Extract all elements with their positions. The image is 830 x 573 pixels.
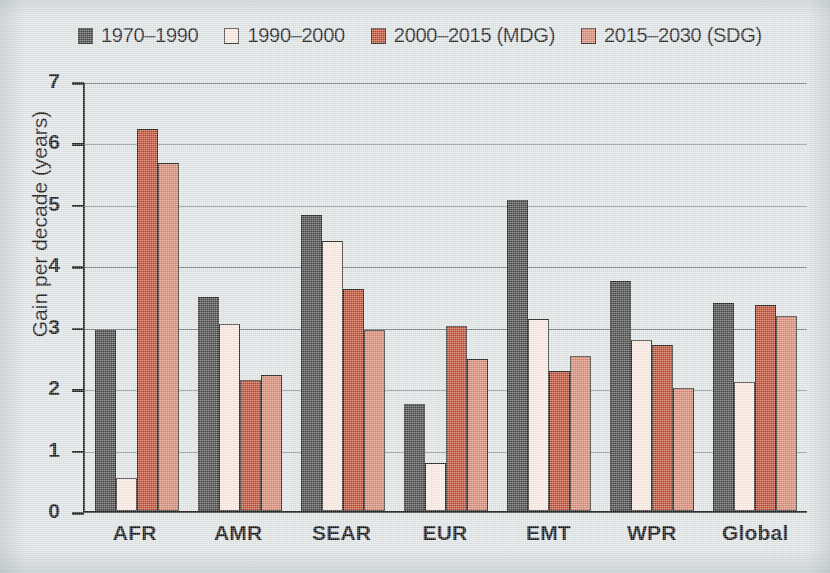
legend-swatch-1990-2000 [224, 28, 239, 44]
bar [219, 324, 240, 511]
y-tick-label: 7 [14, 69, 60, 93]
bars-layer [85, 83, 807, 511]
bar [734, 382, 755, 511]
bar [507, 200, 528, 511]
bar [755, 305, 776, 511]
y-tick-mark [72, 512, 84, 515]
bar [467, 359, 488, 511]
bar-group-emt [498, 83, 601, 511]
bar [404, 404, 425, 512]
bar [652, 345, 673, 511]
bar [301, 215, 322, 511]
legend-label: 2015–2030 (SDG) [604, 24, 762, 47]
legend-label: 2000–2015 (MDG) [394, 24, 555, 47]
x-axis-label-global: Global [704, 521, 807, 555]
bar-group-eur [394, 83, 497, 511]
y-tick-mark [72, 266, 84, 269]
bar [158, 163, 179, 511]
bar-group-afr [85, 83, 188, 511]
bar-group-global [704, 83, 807, 511]
bar [673, 388, 694, 511]
y-tick-mark [72, 82, 84, 85]
x-axis-label-sear: SEAR [290, 521, 393, 555]
y-tick-label: 4 [14, 253, 60, 277]
x-axis-label-wpr: WPR [600, 521, 703, 555]
bar [776, 316, 797, 511]
bar [198, 297, 219, 511]
bar [610, 281, 631, 511]
bar [116, 478, 137, 511]
y-tick-label: 6 [14, 130, 60, 154]
bar [240, 380, 261, 511]
bar-group-wpr [601, 83, 704, 511]
legend-label: 1970–1990 [101, 24, 198, 47]
x-axis-label-afr: AFR [83, 521, 186, 555]
y-tick-label: 0 [14, 499, 60, 523]
plot-area [83, 83, 807, 513]
bar [631, 340, 652, 511]
y-tick-mark [72, 451, 84, 454]
legend-swatch-sdg [581, 28, 596, 44]
x-axis-labels: AFRAMRSEAREUREMTWPRGlobal [83, 521, 807, 555]
bar [343, 289, 364, 511]
bar [261, 375, 282, 511]
y-tick-label: 5 [14, 192, 60, 216]
bar-group-amr [188, 83, 291, 511]
y-tick-label: 1 [14, 438, 60, 462]
bar-group-sear [291, 83, 394, 511]
legend-item: 2000–2015 (MDG) [371, 24, 555, 47]
bar [446, 326, 467, 511]
chart-legend: 1970–19901990–20002000–2015 (MDG)2015–20… [78, 24, 788, 47]
bar [570, 356, 591, 511]
x-axis-label-eur: EUR [393, 521, 496, 555]
y-tick-mark [72, 328, 84, 331]
y-tick-label: 2 [14, 376, 60, 400]
bar [713, 303, 734, 511]
x-axis-label-amr: AMR [186, 521, 289, 555]
bar [549, 371, 570, 511]
y-tick-mark [72, 389, 84, 392]
y-tick-mark [72, 205, 84, 208]
bar [425, 463, 446, 511]
y-tick-label: 3 [14, 315, 60, 339]
bar [95, 330, 116, 511]
y-tick-mark [72, 143, 84, 146]
legend-label: 1990–2000 [247, 24, 344, 47]
bar [528, 319, 549, 511]
legend-swatch-1970-1990 [78, 28, 93, 44]
legend-item: 1970–1990 [78, 24, 198, 47]
legend-swatch-mdg [371, 28, 386, 44]
bar [364, 330, 385, 511]
bar [322, 241, 343, 511]
legend-item: 2015–2030 (SDG) [581, 24, 762, 47]
bar [137, 129, 158, 511]
legend-item: 1990–2000 [224, 24, 344, 47]
x-axis-label-emt: EMT [497, 521, 600, 555]
